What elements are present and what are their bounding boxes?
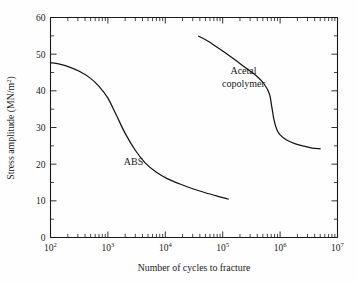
series-label-abs: ABS — [124, 156, 143, 167]
y-tick-label: 60 — [36, 13, 46, 23]
series-label-acetal-line2: copolymer — [222, 78, 265, 89]
x-axis-title: Number of cycles to fracture — [138, 262, 251, 273]
y-tick-label: 40 — [36, 86, 46, 96]
y-tick-label: 50 — [36, 50, 46, 60]
y-axis-title: Stress amplitude (MN/m2) — [5, 76, 17, 179]
y-axis-title-group: Stress amplitude (MN/m2) — [5, 76, 17, 179]
fatigue-sn-chart-figure: 0102030405060 102103104105106107 Number … — [0, 0, 358, 282]
chart-canvas: 0102030405060 102103104105106107 Number … — [0, 0, 358, 282]
y-tick-label: 0 — [41, 233, 46, 243]
y-tick-label: 10 — [36, 196, 46, 206]
y-tick-label: 30 — [36, 123, 46, 133]
series-label-acetal-line1: Acetal — [230, 65, 256, 76]
y-tick-label: 20 — [36, 160, 46, 170]
